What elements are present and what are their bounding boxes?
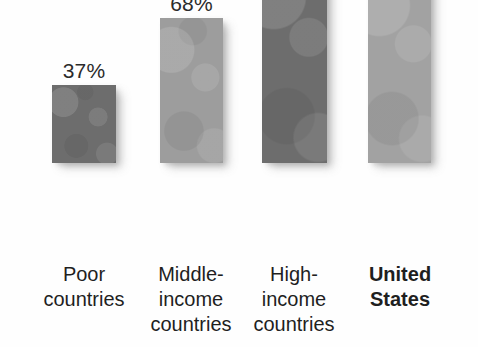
- bar-chart: 37% 68% 100% 94% Poor countries Middle- …: [0, 0, 478, 347]
- bar-poor-countries[interactable]: [52, 85, 116, 163]
- category-label-line: countries: [131, 312, 251, 337]
- bar-middle-income-countries[interactable]: [160, 18, 223, 163]
- bar-group-poor-countries: 37%: [52, 85, 116, 163]
- value-label-middle-income-countries: 68%: [170, 0, 213, 16]
- category-label-united-states: United States: [340, 262, 460, 312]
- category-label-high-income-countries: High- income countries: [234, 262, 354, 337]
- plot-area: 37% 68% 100% 94%: [0, 0, 478, 260]
- category-label-line: Poor: [24, 262, 144, 287]
- value-label-poor-countries: 37%: [63, 59, 106, 83]
- bar-group-high-income-countries: 100%: [262, 0, 327, 163]
- category-label-line: United: [340, 262, 460, 287]
- category-label-line: States: [340, 287, 460, 312]
- category-label-line: countries: [234, 312, 354, 337]
- category-label-middle-income-countries: Middle- income countries: [131, 262, 251, 337]
- bar-group-united-states: 94%: [368, 0, 431, 163]
- category-label-line: countries: [24, 287, 144, 312]
- category-label-line: income: [234, 287, 354, 312]
- category-label-poor-countries: Poor countries: [24, 262, 144, 312]
- category-label-line: High-: [234, 262, 354, 287]
- category-label-line: Middle-: [131, 262, 251, 287]
- bar-high-income-countries[interactable]: [262, 0, 327, 163]
- category-label-line: income: [131, 287, 251, 312]
- bar-united-states[interactable]: [368, 0, 431, 163]
- category-axis-labels: Poor countries Middle- income countries …: [0, 262, 478, 347]
- bar-group-middle-income-countries: 68%: [160, 18, 223, 163]
